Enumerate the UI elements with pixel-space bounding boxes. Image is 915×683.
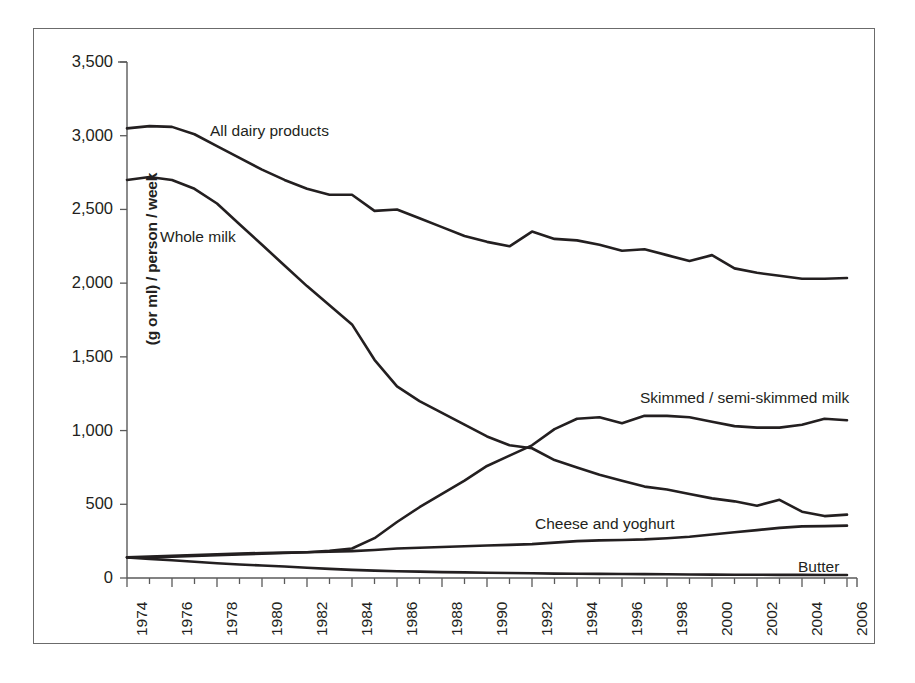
series-line-butter [127,557,847,575]
series-line-all-dairy-products [127,126,847,279]
series-label-butter: Butter [798,558,839,576]
series-label-whole-milk: Whole milk [160,228,236,246]
series-label-all-dairy-products: All dairy products [210,122,329,140]
plot-area [0,0,915,683]
series-label-skimmed-semi-skimmed-milk: Skimmed / semi-skimmed milk [640,389,849,407]
dairy-consumption-chart: (g or ml) / person / week 05001,0001,500… [0,0,915,683]
series-label-cheese-and-yoghurt: Cheese and yoghurt [535,515,675,533]
series-line-cheese-and-yoghurt [127,526,847,558]
